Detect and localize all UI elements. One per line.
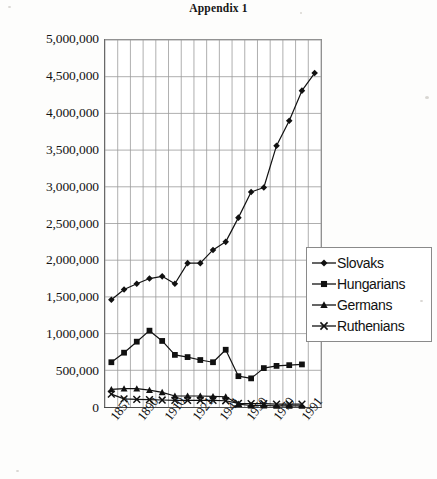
chart-title: Appendix 1 <box>0 2 437 14</box>
legend-item-germans[interactable]: Germans <box>311 294 426 315</box>
series-slovaks <box>108 70 318 303</box>
y-tick-label: 4,000,000 <box>46 105 99 121</box>
cross-marker-icon <box>311 319 337 333</box>
bottom-caption <box>252 469 437 479</box>
scan-artifact <box>425 96 429 99</box>
scan-artifact <box>420 300 423 302</box>
triangle-marker-icon <box>311 298 337 312</box>
y-tick-label: 3,500,000 <box>46 142 99 158</box>
series-lines <box>105 40 321 407</box>
y-tick-label: 3,000,000 <box>46 179 99 195</box>
legend-item-ruthenians[interactable]: Ruthenians <box>311 315 426 336</box>
diamond-marker-icon <box>311 256 337 270</box>
legend-item-hungarians[interactable]: Hungarians <box>311 273 426 294</box>
scan-artifact <box>16 470 19 472</box>
plot-area <box>104 39 322 408</box>
chart-figure: Appendix 1 0500,0001,000,0001,500,0002,0… <box>0 0 437 479</box>
legend-label: Hungarians <box>337 276 405 292</box>
y-tick-label: 1,000,000 <box>46 326 99 342</box>
scan-artifact <box>8 6 11 8</box>
scan-artifact <box>300 12 302 14</box>
legend-label: Ruthenians <box>337 318 404 334</box>
legend-label: Germans <box>337 297 392 313</box>
legend-label: Slovaks <box>337 255 384 271</box>
legend-item-slovaks[interactable]: Slovaks <box>311 252 426 273</box>
chart-legend: SlovaksHungariansGermansRuthenians <box>306 247 432 342</box>
series-hungarians <box>108 328 304 381</box>
square-marker-icon <box>311 277 337 291</box>
y-tick-label: 2,000,000 <box>46 252 99 268</box>
y-tick-label: 1,500,000 <box>46 289 99 305</box>
x-axis: 18571890191019211941195019701991 <box>104 408 322 470</box>
y-tick-label: 4,500,000 <box>46 68 99 84</box>
y-tick-label: 500,000 <box>56 363 99 379</box>
y-axis: 0500,0001,000,0001,500,0002,000,0002,500… <box>0 39 99 408</box>
y-tick-label: 5,000,000 <box>46 31 99 47</box>
y-tick-label: 0 <box>92 400 99 416</box>
y-tick-label: 2,500,000 <box>46 216 99 232</box>
